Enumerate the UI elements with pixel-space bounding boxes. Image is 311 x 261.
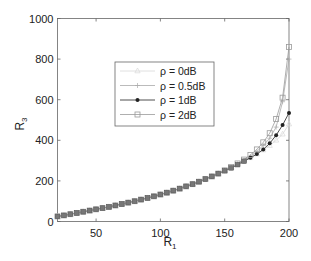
y-tick-label: 1000	[29, 13, 53, 25]
legend-label: ρ = 0dB	[160, 65, 197, 77]
legend: ρ = 0dBρ = 0.5dBρ = 1dBρ = 2dB	[115, 62, 214, 126]
legend-label: ρ = 2dB	[160, 109, 197, 121]
y-tick-label: 600	[35, 94, 53, 106]
x-tick-label: 200	[280, 227, 298, 239]
x-tick-label: 50	[90, 227, 102, 239]
chart: 02004006008001000 50100150200 ρ = 0dBρ =…	[0, 0, 311, 261]
y-tick-label: 400	[35, 134, 53, 146]
y-tick-label: 200	[35, 175, 53, 187]
y-tick-label: 800	[35, 53, 53, 65]
x-axis-label: R1	[163, 235, 177, 251]
legend-label: ρ = 1dB	[160, 94, 197, 106]
legend-label: ρ = 0.5dB	[160, 80, 205, 92]
y-tick-label: 0	[47, 216, 53, 228]
y-axis-label: R3	[13, 117, 29, 131]
x-tick-label: 150	[216, 227, 234, 239]
